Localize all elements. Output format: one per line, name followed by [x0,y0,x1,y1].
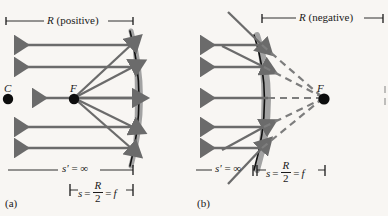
panel-b-R-qualifier: (negative) [308,11,353,23]
panel-a-caption: (a) [5,198,17,209]
panel-a-R-symbol: R [47,14,54,26]
panel-a-s-relation: = [84,188,90,199]
panel-a-s-prime-symbol: s' [62,162,69,174]
page-edge-artifact [384,86,386,105]
panel-b-s-equation: s = R 2 = f [266,161,305,185]
panel-b-R-symbol: R [299,11,306,23]
optics-figure: R (positive) C F s' = ∞ s = R 2 = f (a) … [0,0,388,216]
panel-a-s-numerator: R [93,180,104,192]
panel-a-R-dimension-label: R (positive) [47,15,99,26]
panel-a-s-prime-value: ∞ [80,162,88,174]
panel-b-s-fraction: R 2 [281,160,292,184]
panel-a-s-prime-label: s' = ∞ [62,163,88,174]
panel-a-s-equals: = [105,188,111,199]
ray-diagram-canvas [0,0,388,216]
panel-b-point-F-dot [318,93,329,104]
panel-a-s-denominator: 2 [93,192,104,205]
panel-b-s-prime-value: ∞ [233,162,241,174]
panel-a-s-symbol: s [78,188,82,199]
panel-a-s-focal: f [113,188,116,199]
panel-b-s-numerator: R [281,160,292,172]
panel-a-point-C-label: C [4,83,11,94]
panel-b-s-symbol: s [266,168,270,179]
panel-b-point-F-label: F [317,83,324,94]
panel-b-s-focal: f [301,168,304,179]
panel-a-s-fraction: R 2 [93,180,104,204]
panel-b-virtual-rays [262,45,322,148]
panel-a-R-qualifier: (positive) [56,14,98,26]
panel-b-s-prime-relation: = [224,162,230,174]
panel-b-incoming-rays [200,45,268,148]
panel-a-s-prime-relation: = [71,162,77,174]
panel-b-R-dimension-label: R (negative) [299,12,353,23]
panel-a-point-C-dot [3,94,13,104]
panel-a-reflected-rays [74,45,134,148]
panel-b-s-denominator: 2 [281,172,292,185]
panel-b-graphics [196,12,386,184]
panel-b-s-relation: = [272,168,278,179]
panel-a-s-equation: s = R 2 = f [78,181,117,205]
panel-a-point-F-dot [69,94,79,104]
panel-b-s-prime-label: s' = ∞ [215,163,241,174]
panel-a-point-F-label: F [70,83,77,94]
panel-b-s-equals: = [293,168,299,179]
panel-b-s-prime-symbol: s' [215,162,222,174]
panel-b-caption: (b) [197,198,210,209]
